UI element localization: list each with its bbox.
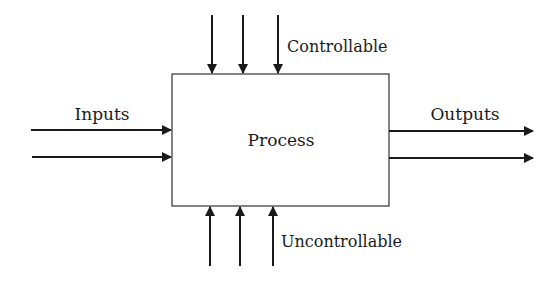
input-process-output-diagram: Process Inputs Outputs Controllable Unco… bbox=[0, 0, 558, 282]
input-arrows bbox=[31, 130, 171, 157]
output-arrows bbox=[389, 131, 533, 158]
controllable-arrows bbox=[212, 15, 278, 73]
uncontrollable-arrows bbox=[210, 207, 273, 266]
outputs-label: Outputs bbox=[430, 104, 499, 124]
controllable-label: Controllable bbox=[287, 37, 388, 56]
process-label: Process bbox=[248, 130, 315, 150]
uncontrollable-label: Uncontrollable bbox=[281, 232, 402, 251]
inputs-label: Inputs bbox=[74, 104, 129, 124]
